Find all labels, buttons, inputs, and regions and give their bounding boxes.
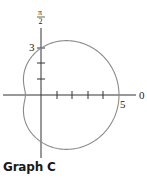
- svg-text:π: π: [38, 8, 42, 17]
- svg-text:2: 2: [39, 17, 43, 26]
- x-tick-label-5: 5: [120, 98, 126, 110]
- graph-caption: Graph C: [3, 160, 56, 174]
- pi-over-2-label: π 2: [37, 8, 45, 26]
- polar-graph: 0 5 3 π 2: [0, 0, 147, 181]
- y-tick-label-3: 3: [29, 41, 35, 53]
- polar-axis-label: 0: [139, 89, 145, 101]
